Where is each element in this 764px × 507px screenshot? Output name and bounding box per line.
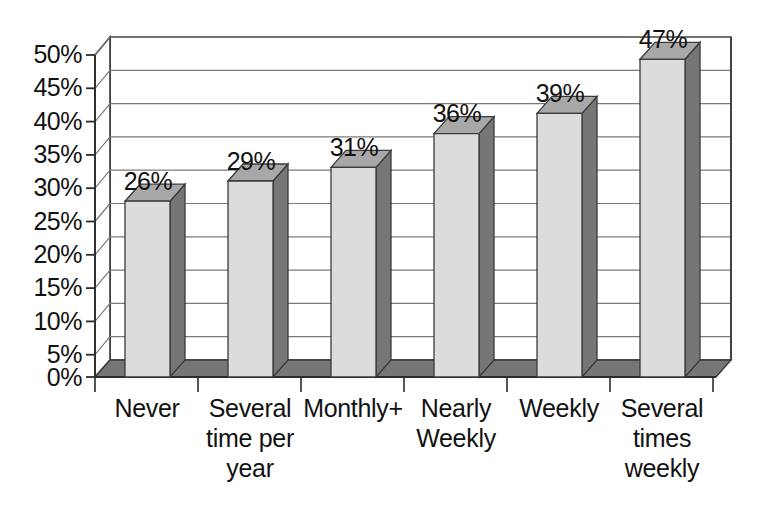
bar-side-face: [170, 184, 185, 377]
y-tick-label: 30%: [8, 175, 82, 200]
bar-group-several-time-per-year: [228, 164, 288, 377]
bar-value-label: 36%: [412, 101, 502, 126]
x-tick-line: Several: [602, 393, 722, 423]
bar-front-face: [125, 201, 170, 377]
bar-side-face: [479, 117, 494, 377]
y-tick-label: 10%: [8, 309, 82, 334]
bar-front-face: [640, 59, 685, 377]
y-tick-label: 45%: [8, 75, 82, 100]
x-tick-label-never: Never: [87, 393, 207, 423]
x-tick-line: year: [190, 453, 310, 483]
bar-value-label: 47%: [618, 27, 708, 52]
bar-group-never: [125, 184, 185, 377]
bar-value-label: 39%: [515, 81, 605, 106]
x-tick-label-monthly-plus: Monthly+: [293, 393, 413, 423]
y-axis-ticks: [86, 55, 95, 377]
x-tick-line: times: [602, 423, 722, 453]
y-tick-label: 0%: [8, 365, 82, 390]
plot-floor: [95, 360, 731, 377]
x-tick-line: Nearly: [396, 393, 516, 423]
bar-group-several-times-weekly: [640, 42, 700, 377]
y-tick-label: 15%: [8, 275, 82, 300]
bar-front-face: [537, 113, 582, 377]
x-tick-label-several-time-per-year: Several time per year: [190, 393, 310, 483]
x-axis-labels: Never Several time per year Monthly+ Nea…: [0, 393, 764, 507]
bar-chart: 50% 45% 40% 35% 30% 25% 20% 15% 10% 5% 0…: [0, 0, 764, 507]
y-tick-label: 50%: [8, 42, 82, 67]
bar-side-face: [376, 150, 391, 377]
x-tick-label-nearly-weekly: Nearly Weekly: [396, 393, 516, 453]
x-tick-line: Several: [190, 393, 310, 423]
bar-side-face: [273, 164, 288, 377]
bar-front-face: [228, 181, 273, 377]
x-tick-line: Monthly+: [293, 393, 413, 423]
y-tick-label: 25%: [8, 209, 82, 234]
x-tick-line: time per: [190, 423, 310, 453]
bar-front-face: [331, 167, 376, 377]
bar-front-face: [434, 134, 479, 377]
x-tick-line: weekly: [602, 453, 722, 483]
bar-side-face: [582, 96, 597, 377]
bar-side-face: [685, 42, 700, 377]
bar-value-label: 31%: [309, 135, 399, 160]
x-axis-ticks: [95, 377, 713, 392]
bar-group-weekly: [537, 96, 597, 377]
x-tick-label-several-times-weekly: Several times weekly: [602, 393, 722, 483]
y-tick-label: 35%: [8, 142, 82, 167]
x-tick-line: Weekly: [499, 393, 619, 423]
x-tick-line: Weekly: [396, 423, 516, 453]
plot-back-wall: [110, 37, 731, 360]
bar-group-monthly-plus: [331, 150, 391, 377]
y-tick-label: 40%: [8, 109, 82, 134]
bar-group-nearly-weekly: [434, 117, 494, 377]
x-tick-line: Never: [87, 393, 207, 423]
bar-value-label: 29%: [206, 149, 296, 174]
y-tick-label: 20%: [8, 242, 82, 267]
bar-value-label: 26%: [103, 169, 193, 194]
x-tick-label-weekly: Weekly: [499, 393, 619, 423]
